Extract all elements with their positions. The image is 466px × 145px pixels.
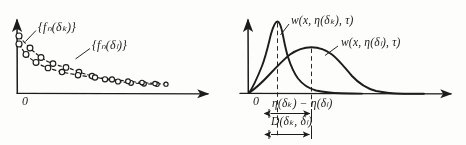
right-curve-density-delta-l	[249, 47, 424, 94]
label-d-distance: D(δₖ, δₗ)	[271, 114, 312, 128]
label-eta-difference: η(δₖ) − η(δₗ)	[272, 96, 333, 110]
figure-root: {fₙ(δₖ)} {fₙ(δₗ)} 0 w(x, η(δₖ), τ) w(x, …	[0, 0, 466, 145]
label-fn-delta-l: {fₙ(δₗ)}	[92, 38, 127, 53]
label-fn-delta-k: {fₙ(δₖ)}	[38, 20, 76, 35]
label-w-delta-l: w(x, η(δₗ), τ)	[341, 35, 401, 49]
left-origin-label: 0	[22, 94, 28, 109]
right-origin-label: 0	[253, 94, 259, 109]
label-w-delta-k: w(x, η(δₖ), τ)	[291, 13, 354, 27]
right-curve-density-delta-k	[249, 22, 362, 94]
